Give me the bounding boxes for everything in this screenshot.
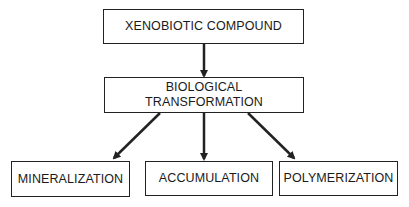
node-xenobiotic-compound: XENOBIOTIC COMPOUND <box>103 9 304 44</box>
node-label: ACCUMULATION <box>159 171 259 186</box>
node-mineralization: MINERALIZATION <box>11 161 130 197</box>
node-label-line2: TRANSFORMATION <box>145 95 263 110</box>
arrow-process-to-polymerization <box>248 113 294 158</box>
node-polymerization: POLYMERIZATION <box>279 161 398 196</box>
node-label: POLYMERIZATION <box>284 171 394 186</box>
node-accumulation: ACCUMULATION <box>145 161 273 196</box>
node-label-line1: BIOLOGICAL <box>166 80 243 95</box>
arrow-process-to-mineralization <box>114 113 160 158</box>
node-biological-transformation: BIOLOGICAL TRANSFORMATION <box>104 77 304 113</box>
node-label: XENOBIOTIC COMPOUND <box>125 19 282 34</box>
node-label: MINERALIZATION <box>18 172 123 187</box>
